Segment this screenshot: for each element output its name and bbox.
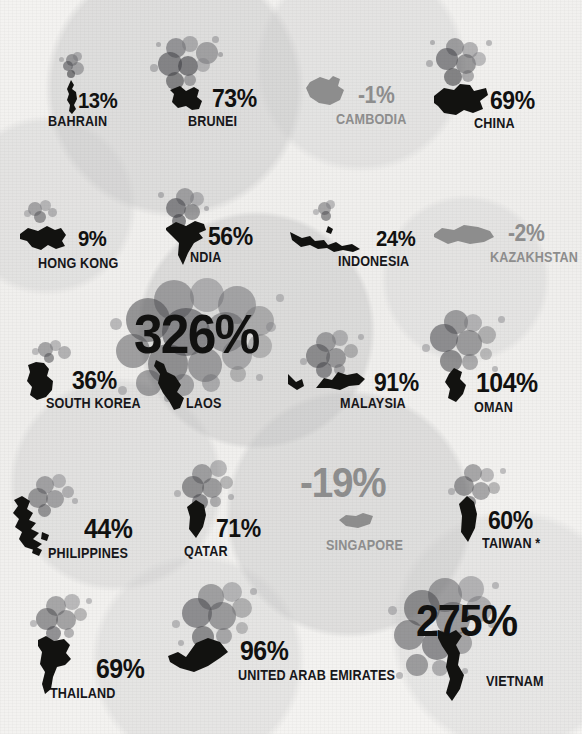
label-philippines: PHILIPPINES: [48, 546, 128, 560]
map-silhouette-cambodia: [302, 74, 348, 112]
value-kazakhstan: -2%: [508, 222, 544, 245]
value-cambodia: -1%: [358, 84, 394, 107]
label-thailand: THAILAND: [50, 686, 116, 700]
label-china: CHINA: [474, 116, 515, 130]
country-cell-qatar[interactable]: 71% QATAR: [168, 460, 308, 560]
value-qatar: 71%: [216, 516, 261, 541]
label-qatar: QATAR: [184, 544, 228, 558]
country-cell-singapore[interactable]: -19% SINGAPORE: [292, 462, 442, 562]
value-brunei: 73%: [212, 86, 257, 111]
value-bahrain: 13%: [78, 90, 117, 112]
map-silhouette-indonesia: [288, 222, 372, 256]
label-kazakhstan: KAZAKHSTAN: [490, 250, 578, 264]
country-cell-brunei[interactable]: 73% BRUNEI: [148, 34, 308, 134]
label-oman: OMAN: [474, 400, 513, 414]
map-silhouette-malaysia: [286, 368, 368, 398]
country-cell-taiwan[interactable]: 60% TAIWAN *: [440, 462, 582, 558]
country-cell-philippines[interactable]: 44% PHILIPPINES: [8, 474, 158, 566]
map-silhouette-taiwan: [458, 496, 480, 542]
label-malaysia: MALAYSIA: [340, 396, 406, 410]
country-cell-indonesia[interactable]: 24% INDONESIA: [286, 200, 436, 276]
value-indonesia: 24%: [376, 228, 415, 250]
label-taiwan: TAIWAN *: [482, 536, 540, 550]
label-cambodia: CAMBODIA: [336, 112, 407, 126]
map-silhouette-laos: [150, 358, 190, 410]
label-brunei: BRUNEI: [188, 114, 237, 128]
value-china: 69%: [490, 88, 535, 113]
label-singapore: SINGAPORE: [326, 538, 403, 552]
value-vietnam: 275%: [416, 598, 517, 643]
value-thailand: 69%: [96, 656, 144, 683]
value-laos: 326%: [134, 306, 259, 362]
label-hongkong: HONG KONG: [38, 256, 118, 270]
label-bahrain: BAHRAIN: [48, 114, 107, 128]
value-southkorea: 36%: [72, 368, 117, 393]
label-uae: UNITED ARAB EMIRATES: [238, 668, 395, 682]
value-taiwan: 60%: [488, 508, 533, 533]
country-cell-oman[interactable]: 104% OMAN: [420, 308, 582, 414]
map-silhouette-kazakhstan: [430, 222, 496, 248]
label-laos: LAOS: [186, 396, 222, 410]
value-oman: 104%: [476, 370, 538, 397]
map-silhouette-hongkong: [16, 222, 72, 256]
map-silhouette-singapore: [336, 512, 376, 530]
value-uae: 96%: [240, 638, 288, 665]
value-india: 56%: [208, 224, 253, 249]
map-silhouette-qatar: [186, 500, 210, 540]
country-cell-thailand[interactable]: 69% THAILAND: [18, 594, 168, 706]
value-singapore: -19%: [300, 462, 386, 504]
country-cell-vietnam[interactable]: 275% VIETNAM: [388, 576, 582, 710]
label-indonesia: INDONESIA: [338, 254, 409, 268]
value-philippines: 44%: [84, 516, 132, 543]
value-malaysia: 91%: [374, 370, 419, 395]
map-silhouette-uae: [166, 636, 230, 678]
map-silhouette-oman: [442, 368, 468, 406]
country-cell-uae[interactable]: 96% UNITED ARAB EMIRATES: [166, 582, 386, 700]
map-silhouette-brunei: [166, 84, 206, 114]
country-cell-kazakhstan[interactable]: -2% KAZAKHSTAN: [430, 200, 580, 276]
country-cell-india[interactable]: 56% NDIA: [150, 188, 300, 280]
country-cell-malaysia[interactable]: 91% MALAYSIA: [286, 330, 436, 418]
infographic-canvas: 13% BAHRAIN 73% BRUNEI -1% CAMBO: [0, 0, 582, 734]
label-vietnam: VIETNAM: [486, 674, 544, 688]
label-india: NDIA: [190, 250, 221, 264]
country-cell-hongkong[interactable]: 9% HONG KONG: [8, 198, 148, 278]
value-hongkong: 9%: [78, 228, 106, 250]
country-cell-china[interactable]: 69% CHINA: [418, 36, 578, 134]
